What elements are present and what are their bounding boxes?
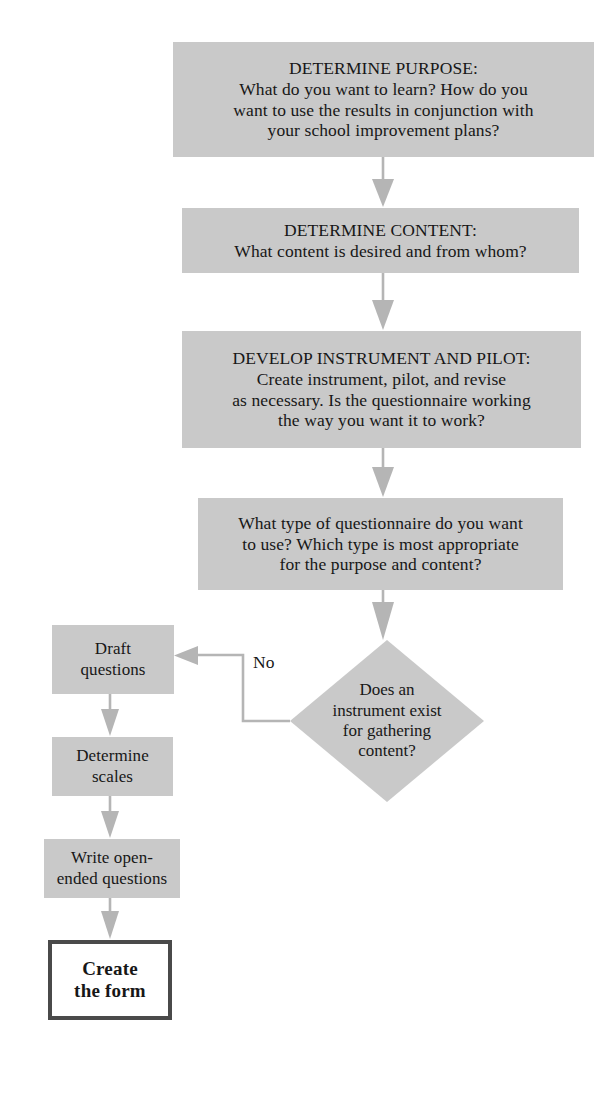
edge-label-no: No <box>253 652 274 673</box>
arrow-type-to-decision <box>372 590 394 640</box>
node-questionnaire-type: What type of questionnaire do you want t… <box>198 498 563 590</box>
node-draft-questions-label: Draft questions <box>58 639 168 679</box>
diamond-shape <box>288 638 486 804</box>
node-develop-instrument-and-pilot-label: DEVELOP INSTRUMENT AND PILOT: Create ins… <box>192 348 571 431</box>
node-determine-scales-label: Determine scales <box>58 746 167 786</box>
arrow-scales-to-open-ended <box>101 796 119 838</box>
node-questionnaire-type-label: What type of questionnaire do you want t… <box>208 513 553 575</box>
node-create-the-form: Create the form <box>48 940 172 1020</box>
arrow-purpose-to-content <box>372 157 394 207</box>
node-create-the-form-label: Create the form <box>58 958 162 1003</box>
flowchart-canvas: .ln { stroke:#b5b5b5; stroke-width:2.6; … <box>0 0 608 1093</box>
arrow-develop-to-type <box>372 448 394 497</box>
node-write-open-ended-questions: Write open- ended questions <box>44 839 180 898</box>
node-determine-purpose: DETERMINE PURPOSE: What do you want to l… <box>173 42 594 157</box>
node-draft-questions: Draft questions <box>52 625 174 694</box>
node-determine-content-label: DETERMINE CONTENT: What content is desir… <box>192 220 569 261</box>
node-determine-purpose-label: DETERMINE PURPOSE: What do you want to l… <box>183 58 584 141</box>
arrow-open-ended-to-create <box>101 898 119 939</box>
node-develop-instrument-and-pilot: DEVELOP INSTRUMENT AND PILOT: Create ins… <box>182 331 581 448</box>
arrow-content-to-develop <box>372 273 394 330</box>
arrow-draft-to-scales <box>101 694 119 736</box>
node-determine-content: DETERMINE CONTENT: What content is desir… <box>182 208 579 273</box>
node-determine-scales: Determine scales <box>52 737 173 796</box>
node-write-open-ended-questions-label: Write open- ended questions <box>48 848 176 888</box>
node-instrument-exists-decision: Does an instrument exist for gathering c… <box>288 638 486 804</box>
